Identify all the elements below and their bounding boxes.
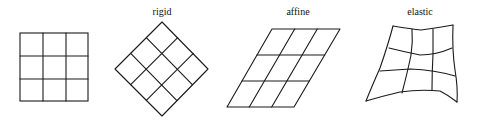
affine-grid [227,29,340,107]
elastic-grid [366,25,457,102]
transformation-diagram [0,0,477,120]
rigid-grid [115,22,208,116]
original-grid [20,33,88,101]
